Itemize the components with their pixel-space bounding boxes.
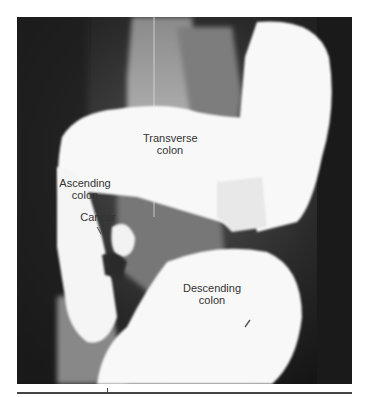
label-descending-colon: Descending colon [181,282,243,306]
rule-tick [107,388,108,394]
page-rule [17,392,352,394]
label-ascending-colon: Ascending colon [57,177,113,201]
label-transverse-colon: Transverse colon [143,132,197,156]
label-cancer: Cancer [79,211,117,223]
